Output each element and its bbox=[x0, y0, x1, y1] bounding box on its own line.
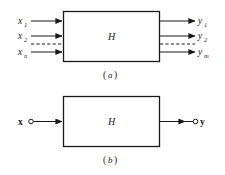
input-label-xn: x n bbox=[17, 47, 27, 59]
caption-b-letter: b bbox=[108, 155, 113, 165]
figure-container: H x 1 x 2 x n bbox=[0, 0, 225, 175]
input-label-xn-base: x bbox=[17, 47, 23, 57]
block-label-a: H bbox=[107, 31, 116, 42]
input-label-x2: x 2 bbox=[17, 31, 28, 43]
input-terminal-b bbox=[29, 119, 34, 124]
output-label-y-vector: y bbox=[200, 117, 205, 127]
input-label-x1-sub: 1 bbox=[24, 21, 27, 28]
input-label-x1-base: x bbox=[17, 16, 23, 26]
output-label-ym-base: y bbox=[197, 47, 203, 57]
panel-a: H x 1 x 2 x n bbox=[17, 12, 209, 82]
caption-b-close: ) bbox=[114, 155, 117, 166]
output-terminal-b bbox=[193, 119, 198, 124]
block-label-b: H bbox=[107, 116, 116, 127]
input-label-x-vector: x bbox=[18, 117, 23, 127]
panel-b: H x y ( b ) bbox=[18, 97, 205, 167]
figure-canvas: H x 1 x 2 x n bbox=[0, 0, 225, 175]
input-label-xn-sub: n bbox=[24, 52, 27, 59]
input-label-x2-sub: 2 bbox=[24, 36, 28, 43]
output-label-y1: y 1 bbox=[197, 16, 207, 28]
caption-a-open: ( bbox=[103, 70, 106, 81]
output-label-ym: y m bbox=[197, 47, 209, 59]
caption-b: ( b ) bbox=[103, 155, 117, 166]
input-label-x2-base: x bbox=[17, 31, 23, 41]
output-label-y1-base: y bbox=[197, 16, 203, 26]
output-label-y2-base: y bbox=[197, 31, 203, 41]
input-label-x1: x 1 bbox=[17, 16, 27, 28]
caption-b-open: ( bbox=[103, 155, 106, 166]
output-label-y2: y 2 bbox=[197, 31, 208, 43]
output-label-y2-sub: 2 bbox=[204, 36, 208, 43]
caption-a-letter: a bbox=[108, 70, 113, 80]
output-label-y1-sub: 1 bbox=[204, 21, 207, 28]
output-label-ym-sub: m bbox=[204, 52, 209, 59]
caption-a-close: ) bbox=[114, 70, 117, 81]
caption-a: ( a ) bbox=[103, 70, 117, 81]
